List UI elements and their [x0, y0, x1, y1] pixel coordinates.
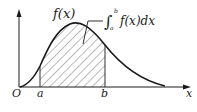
- integral-lower-limit: a: [110, 24, 114, 31]
- origin-label: O: [12, 87, 21, 100]
- x-axis-label: x: [186, 87, 193, 100]
- integral-diagram: f(x) ∫ b a f(x)dx O a b x: [0, 0, 197, 112]
- b-label: b: [101, 87, 108, 100]
- integral-label: ∫ b a f(x)dx: [104, 7, 155, 31]
- a-label: a: [37, 87, 44, 100]
- curve-label: f(x): [52, 6, 75, 21]
- y-axis: [17, 9, 22, 87]
- shaded-area: [40, 10, 105, 87]
- integral-body: f(x)dx: [119, 14, 155, 28]
- y-axis-arrow-icon: [17, 9, 22, 17]
- integral-upper-limit: b: [114, 7, 118, 14]
